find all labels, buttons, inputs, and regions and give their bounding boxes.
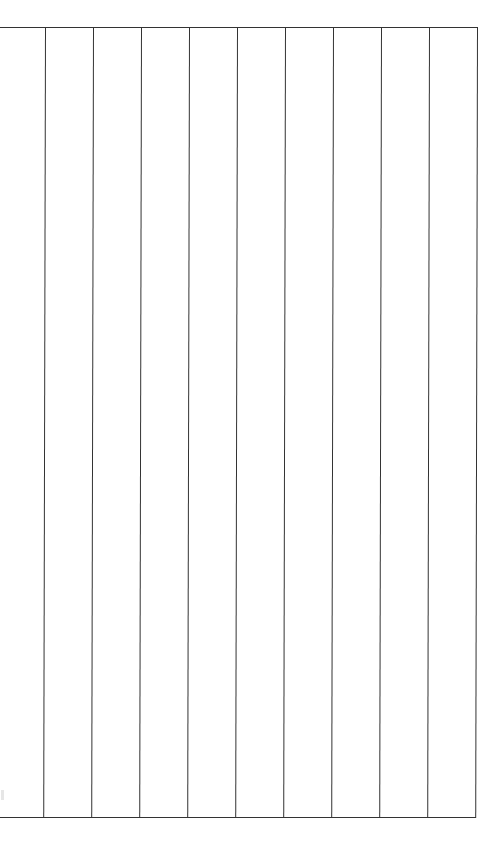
column-divider (235, 28, 238, 817)
column-divider (379, 28, 382, 817)
column-divider (331, 28, 334, 817)
column-divider (43, 28, 46, 817)
column-divider (187, 28, 190, 817)
column-divider (283, 28, 286, 817)
column-divider (139, 28, 142, 817)
column-divider (427, 28, 430, 817)
grid-right-border (475, 28, 478, 817)
column-divider (91, 28, 94, 817)
page-smudge (1, 790, 4, 800)
document-page (0, 0, 501, 853)
ruled-grid (0, 27, 478, 818)
